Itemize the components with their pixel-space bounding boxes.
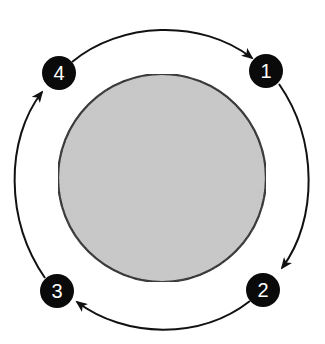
node-2-label: 2 bbox=[257, 279, 268, 301]
arrow-1-to-2 bbox=[279, 84, 309, 268]
central-body bbox=[58, 74, 266, 282]
node-4-label: 4 bbox=[53, 62, 64, 84]
arrow-4-to-1 bbox=[72, 30, 252, 62]
node-3: 3 bbox=[40, 274, 74, 308]
node-3-label: 3 bbox=[51, 280, 62, 302]
diagram-canvas: 1 2 3 4 bbox=[0, 0, 325, 344]
node-2: 2 bbox=[246, 273, 280, 307]
node-1: 1 bbox=[249, 54, 283, 88]
node-4: 4 bbox=[42, 56, 76, 90]
arrow-3-to-4 bbox=[15, 92, 45, 278]
cycle-diagram: 1 2 3 4 bbox=[0, 0, 325, 344]
arrow-2-to-3 bbox=[77, 301, 250, 330]
node-1-label: 1 bbox=[260, 60, 271, 82]
